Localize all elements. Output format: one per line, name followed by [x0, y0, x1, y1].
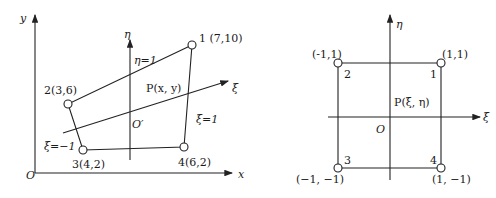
point-label: P(x, y) [146, 82, 181, 95]
node-3 [334, 164, 342, 172]
node-1-label: 1 (7,10) [199, 32, 243, 45]
eta-label: η [396, 18, 403, 31]
xi-pos-label: ξ=1 [196, 113, 218, 126]
local-origin-label: O′ [132, 118, 144, 131]
eta-pos-label: η=1 [134, 54, 157, 67]
xi-label: ξ [232, 82, 239, 95]
xi-label: ξ [483, 111, 490, 124]
xi-neg-label: ξ=−1 [44, 140, 76, 153]
node-3-coord: (−1, −1) [296, 173, 344, 186]
origin-label: O [26, 169, 35, 182]
node-3-label: 3(4,2) [72, 158, 105, 171]
node-2 [64, 100, 72, 108]
isoparametric-mapping-figure: y x O η ξ O′ η=1 ξ=1 ξ=−1 P(x, y) 1 (7,1… [0, 0, 496, 198]
node-4-label: 4(6,2) [178, 156, 211, 169]
node-3 [79, 146, 87, 154]
y-axis-label: y [19, 12, 27, 25]
node-1 [188, 41, 196, 49]
node-1-number: 1 [430, 68, 437, 81]
eta-label: η [124, 28, 131, 41]
node-2-label: 2(3,6) [44, 84, 77, 97]
node-4 [180, 143, 188, 151]
node-4-coord: (1, −1) [432, 173, 471, 186]
node-4-number: 4 [430, 154, 437, 167]
origin-label: O [376, 123, 385, 136]
node-4 [437, 164, 445, 172]
point-label: P(ξ, η) [394, 96, 430, 109]
left-diagram: y x O η ξ O′ η=1 ξ=1 ξ=−1 P(x, y) 1 (7,1… [19, 12, 245, 182]
node-1-coord: (1,1) [442, 48, 468, 61]
x-axis-label: x [238, 168, 245, 181]
node-2-number: 2 [344, 68, 351, 81]
right-diagram: η ξ O P(ξ, η) 1 2 3 4 (1,1) (-1,1) (−1, … [296, 15, 490, 186]
node-2-coord: (-1,1) [312, 48, 342, 61]
node-3-number: 3 [344, 154, 351, 167]
